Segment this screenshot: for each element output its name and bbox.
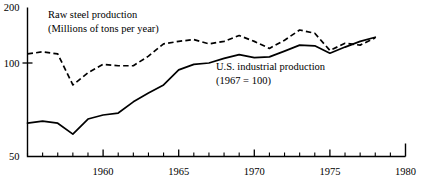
x-tick-label-1960: 1960 [93, 166, 114, 177]
raw-steel-label: Raw steel production(Millions of tons pe… [48, 9, 159, 35]
raw-steel-vs-industrial-production-chart: 50100200 19601965197019751980 Raw steel … [0, 0, 422, 180]
industrial-production-label-line-2: (1967 = 100) [216, 75, 271, 87]
x-tick-label-1965: 1965 [168, 166, 189, 177]
y-tick-label-200: 200 [4, 2, 20, 13]
chart-figure: 50100200 19601965197019751980 Raw steel … [0, 0, 422, 180]
x-axis-ticks [28, 150, 391, 157]
series-raw-steel-production [28, 30, 376, 85]
y-tick-label-100: 100 [4, 58, 20, 69]
y-tick-label-50: 50 [9, 151, 20, 162]
industrial-production-label-line-1: U.S. industrial production [216, 61, 326, 72]
x-tick-label-1980: 1980 [395, 166, 416, 177]
series-u-s-industrial-production [28, 37, 376, 134]
chart-annotations: Raw steel production(Millions of tons pe… [48, 9, 326, 87]
industrial-production-label: U.S. industrial production(1967 = 100) [216, 61, 326, 87]
x-tick-label-1970: 1970 [244, 166, 265, 177]
x-axis-tick-labels: 19601965197019751980 [93, 166, 416, 177]
x-tick-label-1975: 1975 [319, 166, 340, 177]
raw-steel-label-line-1: Raw steel production [48, 9, 138, 20]
y-axis-tick-labels: 50100200 [4, 2, 20, 162]
raw-steel-label-line-2: (Millions of tons per year) [48, 23, 159, 35]
data-series-layer [28, 30, 376, 134]
